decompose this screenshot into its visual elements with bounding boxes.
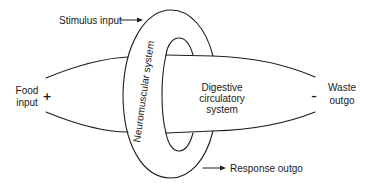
tube-label-line2: circulatory <box>199 93 245 104</box>
tube-right-bottom <box>166 112 315 133</box>
waste-outgo-label-line1: Waste <box>328 82 356 93</box>
inner-ring-lower <box>166 133 193 151</box>
minus-sign: – <box>311 90 317 103</box>
response-arrow <box>203 166 226 171</box>
systems-diagram: Stimulus input Food input + Digestive ci… <box>0 0 368 188</box>
food-input-label-line2: input <box>16 97 38 108</box>
inner-ring-left <box>162 55 166 133</box>
food-input-label-line1: Food <box>16 85 39 96</box>
arrowhead-icon <box>220 166 226 171</box>
arrowhead-icon <box>137 18 143 23</box>
tube-label-line1: Digestive <box>201 82 243 93</box>
tube-left-top <box>46 57 128 78</box>
waste-outgo-label-line2: outgo <box>329 95 354 106</box>
stimulus-arrow <box>120 18 143 23</box>
tube-left-bottom <box>46 112 128 132</box>
stimulus-input-label: Stimulus input <box>59 15 122 26</box>
inner-ring-upper <box>166 38 193 55</box>
plus-sign: + <box>42 90 51 103</box>
digestive-tube <box>46 55 315 133</box>
neuromuscular-label: Neuromuscular system <box>131 40 156 143</box>
tube-label-line3: system <box>206 104 238 115</box>
tube-right-top <box>166 55 315 77</box>
response-outgo-label: Response outgo <box>230 163 303 174</box>
